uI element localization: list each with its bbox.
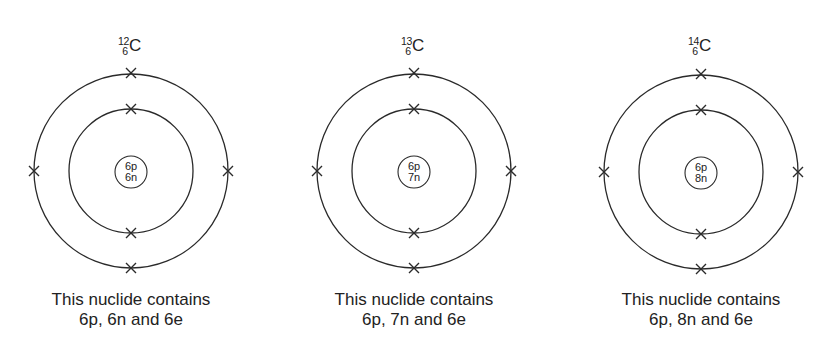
carbon-isotopes-figure: 12 6 C 6p 6n This nuclide contains 6 (0, 0, 820, 353)
caption: This nuclide contains 6p, 8n and 6e (571, 290, 820, 330)
caption-line-2: 6p, 8n and 6e (571, 310, 820, 330)
neutron-count: 7n (397, 172, 431, 183)
atom-carbon-13: 13 6 C 6p 7n This nuclide contains 6 (284, 0, 544, 353)
electron-cross-icon (696, 69, 706, 79)
nucleus-label: 6p 7n (397, 161, 431, 183)
neutron-count: 6n (114, 172, 148, 183)
caption-line-1: This nuclide contains (1, 290, 261, 310)
nucleus-label: 6p 6n (114, 161, 148, 183)
caption-line-2: 6p, 6n and 6e (1, 310, 261, 330)
caption: This nuclide contains 6p, 7n and 6e (284, 290, 544, 330)
electron-cross-icon (126, 68, 136, 78)
atom-carbon-12: 12 6 C 6p 6n This nuclide contains 6 (1, 0, 261, 353)
electron-cross-icon (409, 68, 419, 78)
atom-carbon-14: 14 6 C 6p 8n This nuclide contains 6 (571, 0, 820, 353)
caption-line-2: 6p, 7n and 6e (284, 310, 544, 330)
neutron-count: 8n (684, 173, 718, 184)
caption: This nuclide contains 6p, 6n and 6e (1, 290, 261, 330)
caption-line-1: This nuclide contains (571, 290, 820, 310)
nucleus-label: 6p 8n (684, 162, 718, 184)
caption-line-1: This nuclide contains (284, 290, 544, 310)
